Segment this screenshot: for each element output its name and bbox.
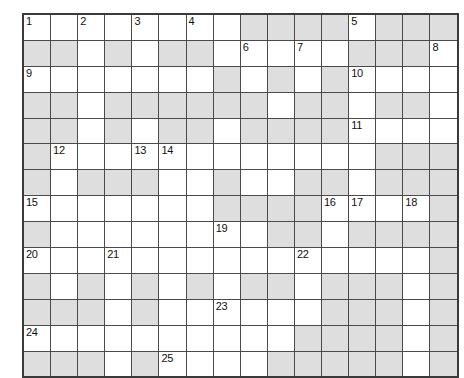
- crossword-cell[interactable]: [376, 248, 403, 274]
- crossword-cell[interactable]: [51, 170, 78, 196]
- crossword-cell[interactable]: [430, 248, 458, 274]
- crossword-cell[interactable]: [213, 40, 240, 66]
- crossword-cell[interactable]: [376, 273, 403, 299]
- crossword-cell[interactable]: [105, 170, 132, 196]
- crossword-cell-numbered-4[interactable]: 4: [186, 14, 213, 40]
- crossword-cell[interactable]: [23, 351, 51, 377]
- crossword-cell[interactable]: [159, 66, 186, 92]
- crossword-cell-numbered-17[interactable]: 17: [349, 196, 376, 222]
- crossword-cell[interactable]: [23, 144, 51, 170]
- crossword-cell[interactable]: [23, 273, 51, 299]
- crossword-cell[interactable]: [132, 196, 159, 222]
- crossword-cell-numbered-13[interactable]: 13: [132, 144, 159, 170]
- crossword-cell[interactable]: [322, 222, 349, 248]
- crossword-cell[interactable]: [294, 170, 321, 196]
- crossword-cell[interactable]: [294, 299, 321, 325]
- crossword-cell[interactable]: [105, 66, 132, 92]
- crossword-cell[interactable]: [294, 273, 321, 299]
- crossword-cell[interactable]: [267, 40, 294, 66]
- crossword-cell[interactable]: [51, 196, 78, 222]
- crossword-cell[interactable]: [213, 196, 240, 222]
- crossword-cell-numbered-25[interactable]: 25: [159, 351, 186, 377]
- crossword-cell[interactable]: [376, 66, 403, 92]
- crossword-cell[interactable]: [376, 144, 403, 170]
- crossword-cell[interactable]: [186, 40, 213, 66]
- crossword-cell[interactable]: [78, 325, 105, 351]
- crossword-cell[interactable]: [132, 351, 159, 377]
- crossword-cell[interactable]: [322, 299, 349, 325]
- crossword-cell[interactable]: [376, 170, 403, 196]
- crossword-cell[interactable]: [349, 144, 376, 170]
- crossword-cell[interactable]: [267, 325, 294, 351]
- crossword-cell[interactable]: [294, 14, 321, 40]
- crossword-cell[interactable]: [186, 273, 213, 299]
- crossword-cell[interactable]: [78, 196, 105, 222]
- crossword-cell-numbered-1[interactable]: 1: [23, 14, 51, 40]
- crossword-cell[interactable]: [159, 118, 186, 144]
- crossword-cell[interactable]: [349, 40, 376, 66]
- crossword-cell[interactable]: [159, 299, 186, 325]
- crossword-cell[interactable]: [403, 66, 430, 92]
- crossword-cell[interactable]: [430, 273, 458, 299]
- crossword-cell[interactable]: [132, 170, 159, 196]
- crossword-cell[interactable]: [322, 273, 349, 299]
- crossword-cell[interactable]: [267, 273, 294, 299]
- crossword-cell[interactable]: [240, 222, 267, 248]
- crossword-cell[interactable]: [132, 273, 159, 299]
- crossword-cell[interactable]: [294, 196, 321, 222]
- crossword-cell[interactable]: [132, 40, 159, 66]
- crossword-cell-numbered-18[interactable]: 18: [403, 196, 430, 222]
- crossword-cell[interactable]: [403, 351, 430, 377]
- crossword-cell[interactable]: [213, 92, 240, 118]
- crossword-cell[interactable]: [159, 92, 186, 118]
- crossword-cell[interactable]: [403, 325, 430, 351]
- crossword-cell[interactable]: [376, 118, 403, 144]
- crossword-cell[interactable]: [213, 273, 240, 299]
- crossword-cell-numbered-6[interactable]: 6: [240, 40, 267, 66]
- crossword-cell-numbered-10[interactable]: 10: [349, 66, 376, 92]
- crossword-cell[interactable]: [403, 273, 430, 299]
- crossword-cell[interactable]: [78, 144, 105, 170]
- crossword-cell[interactable]: [159, 170, 186, 196]
- crossword-cell[interactable]: [294, 222, 321, 248]
- crossword-cell[interactable]: [322, 248, 349, 274]
- crossword-cell[interactable]: [267, 66, 294, 92]
- crossword-cell[interactable]: [322, 66, 349, 92]
- crossword-cell[interactable]: [186, 92, 213, 118]
- crossword-cell[interactable]: [186, 351, 213, 377]
- crossword-cell[interactable]: [51, 351, 78, 377]
- crossword-cell[interactable]: [132, 299, 159, 325]
- crossword-cell-numbered-7[interactable]: 7: [294, 40, 321, 66]
- crossword-cell[interactable]: [403, 92, 430, 118]
- crossword-cell-numbered-15[interactable]: 15: [23, 196, 51, 222]
- crossword-cell[interactable]: [213, 325, 240, 351]
- crossword-cell[interactable]: [267, 222, 294, 248]
- crossword-cell-numbered-12[interactable]: 12: [51, 144, 78, 170]
- crossword-cell[interactable]: [430, 14, 458, 40]
- crossword-cell[interactable]: [376, 222, 403, 248]
- crossword-cell[interactable]: [349, 170, 376, 196]
- crossword-cell[interactable]: [240, 299, 267, 325]
- crossword-cell[interactable]: [349, 222, 376, 248]
- crossword-cell[interactable]: [240, 273, 267, 299]
- crossword-cell[interactable]: [267, 14, 294, 40]
- crossword-cell[interactable]: [376, 325, 403, 351]
- crossword-cell[interactable]: [186, 170, 213, 196]
- crossword-cell[interactable]: [267, 299, 294, 325]
- crossword-cell[interactable]: [322, 118, 349, 144]
- crossword-cell[interactable]: [403, 118, 430, 144]
- crossword-cell[interactable]: [213, 170, 240, 196]
- crossword-cell[interactable]: [349, 248, 376, 274]
- crossword-cell[interactable]: [322, 144, 349, 170]
- crossword-cell[interactable]: [430, 144, 458, 170]
- crossword-cell[interactable]: [51, 325, 78, 351]
- crossword-cell[interactable]: [376, 40, 403, 66]
- crossword-cell[interactable]: [322, 325, 349, 351]
- crossword-cell[interactable]: [240, 92, 267, 118]
- crossword-cell[interactable]: [213, 144, 240, 170]
- crossword-cell[interactable]: [430, 351, 458, 377]
- crossword-cell[interactable]: [240, 144, 267, 170]
- crossword-cell[interactable]: [213, 66, 240, 92]
- crossword-cell[interactable]: [294, 66, 321, 92]
- crossword-cell[interactable]: [240, 196, 267, 222]
